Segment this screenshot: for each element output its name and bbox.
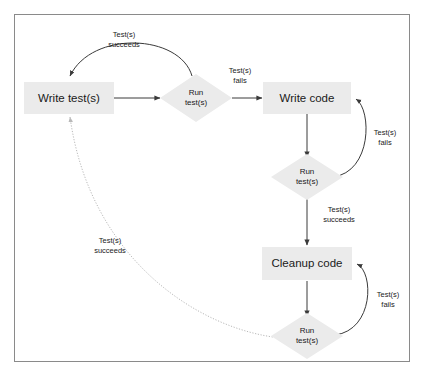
edge-label-tests-fails-top: Test(s) fails: [214, 66, 266, 86]
edge-succeeds-dotted-return: [70, 117, 281, 338]
diagram-canvas: Write test(s) Run test(s) Write code Run…: [0, 0, 425, 378]
node-write-code[interactable]: Write code: [263, 82, 351, 114]
node-cleanup-code[interactable]: Cleanup code: [262, 247, 352, 280]
node-cleanup-code-label: Cleanup code: [272, 257, 343, 270]
node-write-tests[interactable]: Write test(s): [24, 82, 114, 114]
edge-label-tests-succeeds-top: Test(s) succeeds: [96, 30, 152, 50]
diagram-connectors: [0, 0, 425, 378]
edge-label-tests-succeeds-return: Test(s) succeeds: [82, 236, 138, 256]
node-run-tests-2[interactable]: Run test(s): [271, 154, 343, 200]
node-run-tests-3[interactable]: Run test(s): [271, 313, 343, 359]
node-write-code-label: Write code: [280, 92, 335, 105]
edge-label-tests-succeeds-middle: Test(s) succeeds: [311, 205, 367, 225]
edge-label-tests-fails-right-1: Test(s) fails: [360, 128, 410, 148]
node-write-tests-label: Write test(s): [38, 92, 100, 105]
node-run-tests-3-label: Run test(s): [296, 326, 318, 346]
node-run-tests-1-label: Run test(s): [185, 88, 207, 108]
edge-label-tests-fails-right-2: Test(s) fails: [363, 290, 413, 310]
node-run-tests-2-label: Run test(s): [296, 167, 318, 187]
